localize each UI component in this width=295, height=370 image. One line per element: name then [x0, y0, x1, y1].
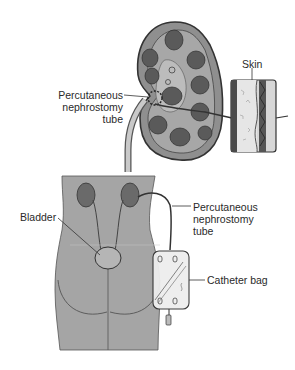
- skin-layers: [231, 68, 288, 152]
- body-back-view: [55, 176, 160, 350]
- label-catheter-bag: Catheter bag: [207, 274, 268, 286]
- diagram-illustration: [0, 0, 295, 370]
- label-skin: Skin: [242, 58, 262, 70]
- nephrostomy-diagram: Skin Percutaneous nephrostomy tube Bladd…: [0, 0, 295, 370]
- label-nephrostomy-tube-top: Percutaneous nephrostomy tube: [53, 89, 123, 125]
- label-nephrostomy-tube-bottom: Percutaneous nephrostomy tube: [193, 201, 258, 237]
- label-bladder: Bladder: [20, 211, 56, 223]
